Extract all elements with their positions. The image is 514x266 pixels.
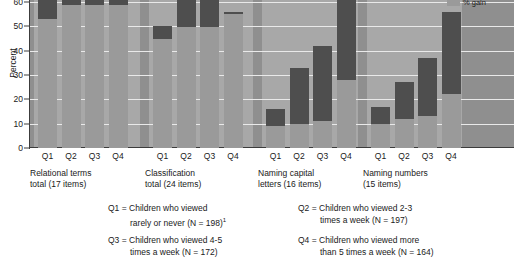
legend-label: % gain <box>463 0 486 7</box>
bar-segment-lower <box>395 119 414 148</box>
bar-segment-lower <box>200 27 219 148</box>
bar-segment-upper <box>313 46 332 121</box>
y-axis-tick-label: 10 <box>14 119 23 129</box>
y-axis-tick-label: 40 <box>14 46 23 56</box>
x-axis-group-label: Classificationtotal (24 items) <box>145 168 201 190</box>
group-label-line-2: (15 items) <box>363 179 428 190</box>
group-label-line-2: total (17 items) <box>30 179 91 190</box>
bar <box>62 0 81 148</box>
group-label-line-1: Naming numbers <box>363 168 428 179</box>
x-axis-tick-label: Q2 <box>392 151 416 161</box>
bar-segment-lower <box>177 27 196 148</box>
bar <box>224 12 243 148</box>
legend-key: Q1 = Children who viewedrarely or never … <box>0 198 514 266</box>
bar <box>38 0 57 148</box>
bar <box>85 0 104 148</box>
bar-segment-upper <box>290 68 309 124</box>
bar-segment-lower <box>62 5 81 148</box>
group-label-line-1: Naming capital <box>258 168 321 179</box>
x-axis-tick-label: Q3 <box>416 151 440 161</box>
x-axis-group-label: Relational termstotal (17 items) <box>30 168 91 190</box>
x-axis-tick-label: Q4 <box>334 151 358 161</box>
bar-segment-upper <box>266 109 285 126</box>
bar-segment-upper <box>337 0 356 80</box>
group-label-line-2: total (24 items) <box>145 179 201 190</box>
y-axis-tick-label: 50 <box>14 21 23 31</box>
chart-figure: Percent 6050403020100 % gain Q1Q2Q3Q4Q1Q… <box>0 0 514 266</box>
bar-segment-upper <box>177 0 196 27</box>
bar-segment-lower <box>153 39 172 149</box>
x-axis-tick-label: Q1 <box>264 151 288 161</box>
bar <box>153 26 172 148</box>
bar-segment-lower <box>371 124 390 148</box>
bar <box>442 12 461 148</box>
legend-key-line-1: Q1 = Children who viewed <box>108 203 207 213</box>
x-axis-tick-label: Q2 <box>59 151 83 161</box>
x-axis-tick-label: Q2 <box>174 151 198 161</box>
bar <box>200 0 219 148</box>
bar-segment-upper <box>395 82 414 119</box>
bar-segment-upper <box>153 26 172 38</box>
x-axis-tick-label: Q3 <box>83 151 107 161</box>
bar-segment-lower <box>442 94 461 148</box>
bar <box>290 68 309 148</box>
bar-segment-lower <box>418 116 437 148</box>
group-label-line-1: Classification <box>145 168 201 179</box>
bar-segment-lower <box>109 5 128 148</box>
x-axis-group-label: Naming capitalletters (16 items) <box>258 168 321 190</box>
footnote-marker: 1 <box>223 217 226 223</box>
y-axis-tick-label: 20 <box>14 94 23 104</box>
bar-segment-lower <box>38 19 57 148</box>
x-axis-tick-label: Q1 <box>369 151 393 161</box>
bar <box>395 82 414 148</box>
bar-segment-upper <box>200 0 219 27</box>
x-axis-tick-label: Q3 <box>198 151 222 161</box>
bar-segment-upper <box>371 107 390 124</box>
bar <box>109 0 128 148</box>
x-axis-tick-label: Q2 <box>287 151 311 161</box>
y-axis-tick-label: 60 <box>14 0 23 7</box>
bar-segment-upper <box>418 58 437 116</box>
x-axis-tick-label: Q4 <box>106 151 130 161</box>
y-axis-label: Percent <box>8 33 18 93</box>
bar <box>177 0 196 148</box>
bar-segment-lower <box>85 5 104 148</box>
bar-segment-upper <box>38 0 57 19</box>
legend-key-line-1: Q4 = Children who viewed more <box>298 235 419 245</box>
bar <box>371 107 390 148</box>
x-axis-group-label: Naming numbers(15 items) <box>363 168 428 190</box>
legend-key-line-2: times a week (N = 197) <box>298 214 412 226</box>
bar <box>266 109 285 148</box>
legend-key-line-2: times a week (N = 172) <box>108 246 222 258</box>
x-axis-tick-label: Q4 <box>221 151 245 161</box>
legend-key-item-q1: Q1 = Children who viewedrarely or never … <box>108 202 226 229</box>
bar <box>313 46 332 148</box>
legend-key-line-2: rarely or never (N = 198)1 <box>108 214 226 229</box>
legend-key-line-1: Q2 = Children who viewed 2-3 <box>298 203 412 213</box>
bar <box>337 0 356 148</box>
legend-key-item-q2: Q2 = Children who viewed 2-3times a week… <box>298 202 412 226</box>
bar-segment-lower <box>224 14 243 148</box>
legend-key-item-q4: Q4 = Children who viewed morethan 5 time… <box>298 234 434 258</box>
y-axis-tick-label: 30 <box>14 70 23 80</box>
bar <box>418 58 437 148</box>
group-label-line-1: Relational terms <box>30 168 91 179</box>
legend-key-line-1: Q3 = Children who viewed 4-5 <box>108 235 222 245</box>
y-axis: Percent 6050403020100 <box>0 0 30 155</box>
x-axis-tick-label: Q3 <box>311 151 335 161</box>
legend-key-item-q3: Q3 = Children who viewed 4-5times a week… <box>108 234 222 258</box>
bar-segment-upper <box>442 12 461 95</box>
x-axis-tick-label: Q1 <box>151 151 175 161</box>
bar-segment-lower <box>337 80 356 148</box>
legend-key-line-2: than 5 times a week (N = 164) <box>298 246 434 258</box>
plot-area: % gain <box>30 0 514 148</box>
x-axis-tick-label: Q1 <box>36 151 60 161</box>
legend: % gain <box>447 0 486 7</box>
legend-swatch-icon <box>447 0 460 6</box>
y-axis-tick-label: 0 <box>18 143 23 153</box>
bar-segment-lower <box>290 124 309 148</box>
bar-segment-lower <box>313 121 332 148</box>
x-axis-tick-label: Q4 <box>439 151 463 161</box>
bar-segment-lower <box>266 126 285 148</box>
group-label-line-2: letters (16 items) <box>258 179 321 190</box>
